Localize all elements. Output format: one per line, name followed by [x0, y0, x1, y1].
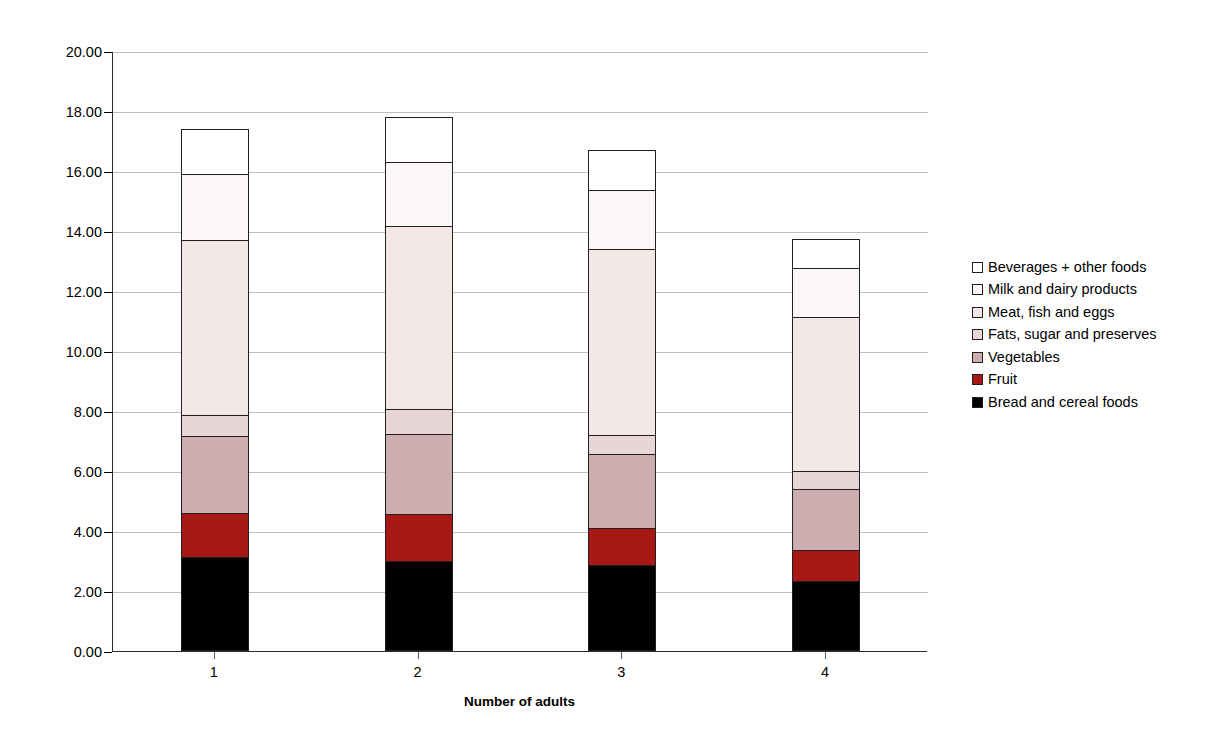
- chart-legend: Beverages + other foodsMilk and dairy pr…: [972, 256, 1222, 414]
- bar-segment: [792, 471, 860, 490]
- y-axis-tick-label: 0.00: [36, 645, 102, 660]
- legend-item-label: Fruit: [988, 372, 1017, 387]
- y-axis-tick-label: 10.00: [36, 345, 102, 360]
- legend-item: Fats, sugar and preserves: [972, 324, 1222, 347]
- y-axis-tick-mark: [104, 172, 112, 173]
- legend-item: Meat, fish and eggs: [972, 301, 1222, 324]
- y-axis-tick-mark: [104, 52, 112, 53]
- legend-item-label: Fats, sugar and preserves: [988, 327, 1156, 342]
- legend-item: Bread and cereal foods: [972, 391, 1222, 414]
- y-axis-tick-mark: [104, 292, 112, 293]
- bar-segment: [792, 581, 860, 651]
- legend-item-label: Meat, fish and eggs: [988, 305, 1115, 320]
- x-axis-tick-mark: [214, 652, 215, 659]
- bar-segment: [588, 565, 656, 651]
- bar-segment: [181, 436, 249, 514]
- bar-segment: [181, 557, 249, 651]
- legend-item-label: Vegetables: [988, 350, 1060, 365]
- x-axis-tick-mark: [621, 652, 622, 659]
- bar-segment: [792, 550, 860, 582]
- y-axis-tick-label: 8.00: [36, 405, 102, 420]
- gridline: [113, 52, 928, 53]
- bar-segment: [588, 190, 656, 250]
- y-axis-tick-label: 12.00: [36, 285, 102, 300]
- bar-segment: [385, 117, 453, 163]
- bar-segment: [385, 162, 453, 228]
- x-axis-tick-label: 4: [790, 664, 860, 680]
- bar-segment: [181, 129, 249, 175]
- y-axis-tick-label: 14.00: [36, 225, 102, 240]
- x-axis-tick-label: 3: [586, 664, 656, 680]
- legend-swatch-icon: [972, 352, 983, 363]
- bar-stack: [385, 117, 453, 651]
- stacked-bar-chart: 0.002.004.006.008.0010.0012.0014.0016.00…: [0, 0, 1226, 751]
- y-axis-tick-mark: [104, 472, 112, 473]
- y-axis-tick-label: 20.00: [36, 45, 102, 60]
- bar-segment: [385, 561, 453, 651]
- legend-swatch-icon: [972, 307, 983, 318]
- y-axis-tick-label: 6.00: [36, 465, 102, 480]
- bar-segment: [792, 239, 860, 269]
- legend-item-label: Milk and dairy products: [988, 282, 1137, 297]
- y-axis-tick-label: 4.00: [36, 525, 102, 540]
- bar-segment: [588, 528, 656, 566]
- x-axis-tick-label: 2: [383, 664, 453, 680]
- bar-segment: [385, 226, 453, 410]
- bar-segment: [588, 454, 656, 530]
- legend-item: Milk and dairy products: [972, 279, 1222, 302]
- x-axis-tick-label: 1: [179, 664, 249, 680]
- bar-segment: [385, 409, 453, 435]
- legend-item: Fruit: [972, 369, 1222, 392]
- plot-area: [112, 52, 927, 652]
- bar-segment: [792, 268, 860, 319]
- legend-swatch-icon: [972, 284, 983, 295]
- legend-swatch-icon: [972, 374, 983, 385]
- legend-item-label: Bread and cereal foods: [988, 395, 1138, 410]
- bar-segment: [181, 415, 249, 437]
- bar-stack: [588, 150, 656, 651]
- y-axis-tick-mark: [104, 652, 112, 653]
- y-axis-tick-mark: [104, 112, 112, 113]
- legend-item: Vegetables: [972, 346, 1222, 369]
- y-axis-tick-mark: [104, 592, 112, 593]
- bar-segment: [792, 489, 860, 552]
- bar-segment: [385, 514, 453, 562]
- legend-item-label: Beverages + other foods: [988, 260, 1146, 275]
- y-axis-tick-label: 18.00: [36, 105, 102, 120]
- bar-segment: [181, 513, 249, 559]
- y-axis-tick-label: 2.00: [36, 585, 102, 600]
- legend-swatch-icon: [972, 262, 983, 273]
- bar-segment: [792, 317, 860, 472]
- bar-segment: [181, 174, 249, 242]
- bar-stack: [181, 129, 249, 651]
- x-axis-tick-mark: [418, 652, 419, 659]
- x-axis-tick-mark: [825, 652, 826, 659]
- y-axis-tick-mark: [104, 232, 112, 233]
- bar-stack: [792, 239, 860, 651]
- legend-swatch-icon: [972, 329, 983, 340]
- legend-swatch-icon: [972, 397, 983, 408]
- x-axis-title: Number of adults: [112, 694, 927, 709]
- bar-segment: [588, 249, 656, 436]
- y-axis: 0.002.004.006.008.0010.0012.0014.0016.00…: [36, 0, 102, 751]
- legend-item: Beverages + other foods: [972, 256, 1222, 279]
- bar-segment: [385, 434, 453, 516]
- gridline: [113, 112, 928, 113]
- y-axis-tick-mark: [104, 532, 112, 533]
- y-axis-tick-mark: [104, 352, 112, 353]
- y-axis-tick-mark: [104, 412, 112, 413]
- bar-segment: [588, 150, 656, 192]
- y-axis-tick-label: 16.00: [36, 165, 102, 180]
- bar-segment: [181, 240, 249, 416]
- bar-segment: [588, 435, 656, 455]
